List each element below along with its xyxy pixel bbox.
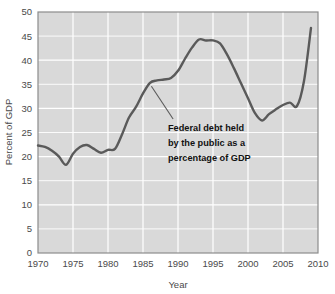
y-tick-30: 30: [21, 103, 32, 114]
figure-container: 05101520253035404550 1970197519801985199…: [0, 0, 335, 294]
x-tick-1985: 1985: [132, 258, 153, 269]
annotation-line-1: Federal debt held: [168, 123, 244, 133]
x-axis-tick-labels: 197019751980198519901995200020052010: [27, 258, 328, 269]
x-tick-1970: 1970: [27, 258, 48, 269]
y-tick-0: 0: [27, 247, 32, 258]
line-chart: 05101520253035404550 1970197519801985199…: [0, 0, 335, 294]
y-tick-45: 45: [21, 31, 32, 42]
x-tick-2010: 2010: [307, 258, 328, 269]
annotation-label: Federal debt held by the public as a per…: [168, 123, 251, 163]
y-tick-5: 5: [27, 223, 32, 234]
x-tick-1975: 1975: [62, 258, 83, 269]
annotation-line-3: percentage of GDP: [168, 153, 251, 163]
y-tick-50: 50: [21, 6, 32, 17]
y-axis-title: Percent of GDP: [3, 99, 14, 166]
x-tick-2005: 2005: [272, 258, 293, 269]
y-tick-40: 40: [21, 55, 32, 66]
y-tick-25: 25: [21, 127, 32, 138]
y-tick-20: 20: [21, 151, 32, 162]
x-tick-2000: 2000: [237, 258, 258, 269]
y-tick-10: 10: [21, 199, 32, 210]
x-tick-1990: 1990: [167, 258, 188, 269]
y-tick-15: 15: [21, 175, 32, 186]
x-tick-1995: 1995: [202, 258, 223, 269]
x-tick-1980: 1980: [97, 258, 118, 269]
annotation-line-2: by the public as a: [168, 138, 246, 148]
x-axis-title: Year: [168, 279, 187, 290]
y-tick-35: 35: [21, 79, 32, 90]
